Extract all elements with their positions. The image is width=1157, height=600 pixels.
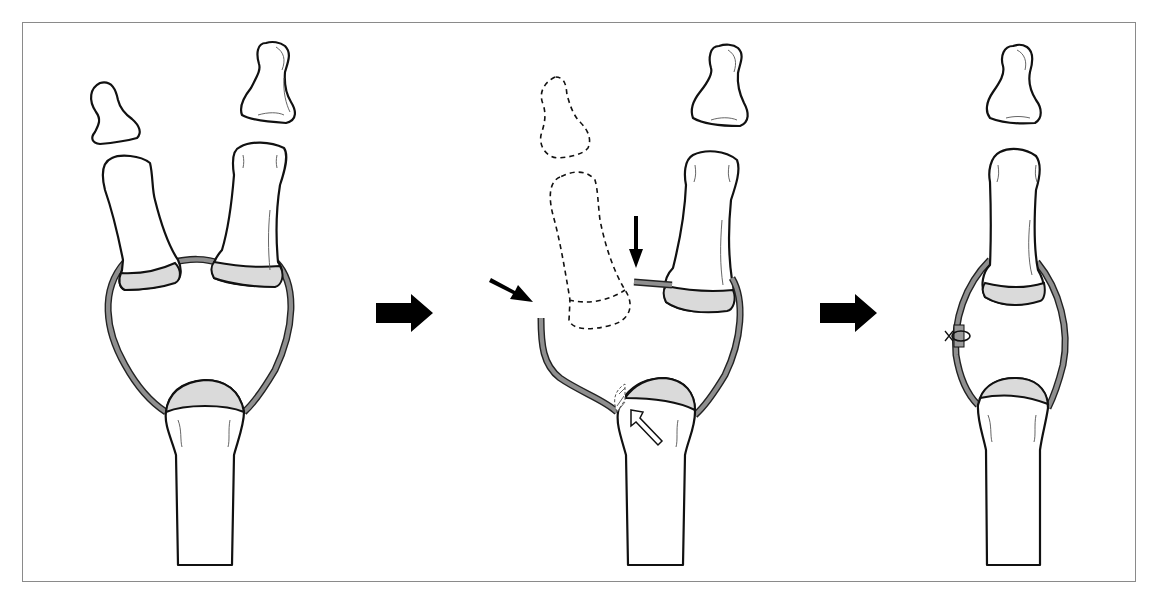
panel-after xyxy=(945,45,1065,565)
proximal-cartilage xyxy=(983,283,1045,305)
right-arrow-icon xyxy=(820,294,877,332)
right-proximal-cartilage xyxy=(211,262,282,287)
diagonal-arrow-icon xyxy=(489,278,533,302)
surgical-diagram xyxy=(0,0,1157,600)
right-distal-phalanx xyxy=(692,45,748,126)
cut-ligament-left xyxy=(541,318,617,412)
excised-proximal-phalanx-outline xyxy=(550,172,630,329)
panel-excision xyxy=(489,45,748,565)
right-distal-phalanx xyxy=(241,42,295,123)
right-arrow-icon xyxy=(376,294,433,332)
excised-distal-phalanx-outline xyxy=(541,77,590,158)
right-proximal-cartilage xyxy=(664,286,735,312)
left-distal-phalanx xyxy=(91,82,140,144)
panel-before xyxy=(91,42,295,565)
down-arrow-icon xyxy=(629,216,643,268)
distal-phalanx xyxy=(987,45,1041,124)
metacarpal-head xyxy=(978,378,1048,565)
proximal-phalanx xyxy=(983,149,1044,305)
suture-icon xyxy=(945,325,970,347)
